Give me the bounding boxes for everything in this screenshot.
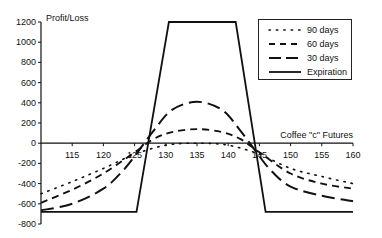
y-tick-label: -400 <box>18 179 36 189</box>
y-axis-title: Profit/Loss <box>46 13 89 23</box>
legend-label: 60 days <box>307 38 339 50</box>
legend-label: 90 days <box>307 24 339 36</box>
y-tick-label: 800 <box>21 57 36 67</box>
x-tick-label: 115 <box>65 150 79 160</box>
y-tick-label: 1000 <box>16 37 36 47</box>
x-tick-label: 120 <box>96 150 111 160</box>
dashed-line-swatch <box>267 41 301 47</box>
y-tick-label: 0 <box>31 138 36 148</box>
x-axis-title: Coffee "c" Futures <box>280 130 353 140</box>
y-tick-label: 1200 <box>16 17 36 27</box>
legend-label: Expiration <box>307 66 347 78</box>
x-tick-label: 155 <box>314 150 329 160</box>
dotted-line-swatch <box>267 27 301 33</box>
solid-line-swatch <box>267 69 301 75</box>
y-axis: 120010008006004002000-200-400-600-800 <box>16 17 41 229</box>
legend-item-expiration: Expiration <box>259 66 351 80</box>
x-tick-label: 150 <box>283 150 298 160</box>
legend-label: 30 days <box>307 52 339 64</box>
x-axis: 115120125130135140145150155160 <box>41 143 361 160</box>
y-tick-label: 400 <box>21 98 36 108</box>
y-tick-label: -800 <box>18 219 36 229</box>
x-tick-label: 135 <box>189 150 204 160</box>
long-dashed-line-swatch <box>267 55 301 61</box>
x-tick-label: 130 <box>158 150 173 160</box>
y-tick-label: 200 <box>21 118 36 128</box>
y-tick-label: -600 <box>18 199 36 209</box>
x-tick-label: 160 <box>345 150 360 160</box>
legend: 90 days 60 days 30 days Expiration <box>258 19 352 80</box>
legend-item-60-days: 60 days <box>259 38 351 52</box>
y-tick-label: 600 <box>21 78 36 88</box>
y-tick-label: -200 <box>18 158 36 168</box>
x-tick-label: 140 <box>221 150 236 160</box>
legend-item-30-days: 30 days <box>259 52 351 66</box>
legend-item-90-days: 90 days <box>259 24 351 38</box>
